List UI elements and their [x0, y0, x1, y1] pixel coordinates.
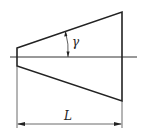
arrow-right-icon — [114, 122, 122, 126]
arrow-left-icon — [17, 122, 25, 126]
angle-arrow-bottom-icon — [67, 52, 70, 58]
cone-diagram: γ L — [0, 0, 146, 136]
angle-label: γ — [72, 35, 80, 49]
length-label: L — [63, 109, 72, 123]
